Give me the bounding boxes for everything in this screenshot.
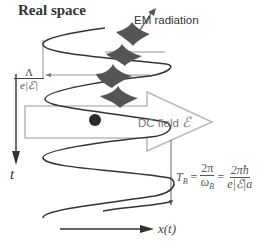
x-axis-arrow [60, 225, 154, 233]
formula-frac-2: 2πħ e|ℰ|a [227, 164, 252, 191]
lambda-fraction: Λ e|ℰ| [14, 66, 44, 91]
x-axis-label: x(t) [158, 221, 176, 237]
dc-field-symbol: ℰ [182, 115, 190, 130]
dc-field-text: DC field [138, 117, 179, 129]
formula-eq-2: = [217, 170, 224, 185]
dc-field-label: DC field ℰ [138, 114, 190, 131]
formula-lhs: TB [176, 170, 188, 186]
time-axis-label: t [10, 166, 14, 183]
electron-dot [89, 114, 101, 126]
em-radiation-label: EM radiation [134, 14, 199, 26]
diagram-title: Real space [18, 2, 86, 19]
formula-frac-1: 2π ωB [200, 162, 214, 193]
lambda-denominator: e|ℰ| [14, 78, 44, 91]
bloch-period-guide [169, 140, 173, 206]
bloch-period-formula: TB = 2π ωB = 2πħ e|ℰ|a [176, 162, 252, 193]
formula-eq-1: = [191, 170, 198, 185]
lambda-numerator: Λ [14, 66, 44, 78]
bloch-oscillation-diagram: Real space EM radiation DC field ℰ t x(t… [0, 0, 276, 249]
